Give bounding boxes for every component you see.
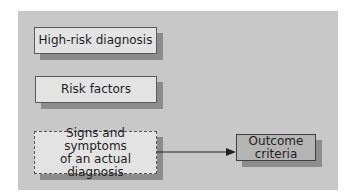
outcome-criteria-box: Outcome criteria bbox=[236, 134, 316, 161]
arrow-connector bbox=[157, 146, 237, 158]
high-risk-diagnosis-box: High-risk diagnosis bbox=[34, 27, 157, 54]
signs-and-symptoms-label-line2: of an actual diagnosis bbox=[35, 153, 156, 179]
risk-factors-box: Risk factors bbox=[35, 76, 157, 103]
signs-and-symptoms-label-line1: Signs and symptoms bbox=[35, 127, 156, 153]
outcome-criteria-label: Outcome criteria bbox=[237, 135, 315, 161]
signs-and-symptoms-box: Signs and symptoms of an actual diagnosi… bbox=[34, 131, 157, 174]
risk-factors-label: Risk factors bbox=[61, 83, 131, 96]
high-risk-diagnosis-label: High-risk diagnosis bbox=[39, 34, 153, 47]
